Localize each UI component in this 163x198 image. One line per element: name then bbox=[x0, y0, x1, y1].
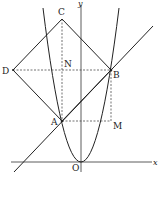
label-o: O bbox=[72, 163, 79, 173]
point-d bbox=[12, 69, 14, 71]
label-b: B bbox=[113, 70, 120, 80]
geometry-figure: C D N B A M O x y bbox=[0, 0, 163, 198]
label-d: D bbox=[2, 66, 9, 76]
label-n: N bbox=[64, 59, 72, 69]
label-y: y bbox=[77, 0, 83, 8]
point-a bbox=[61, 120, 64, 123]
label-x: x bbox=[153, 158, 158, 167]
label-a: A bbox=[50, 117, 58, 127]
point-b bbox=[110, 69, 113, 72]
label-m: M bbox=[113, 121, 122, 131]
label-c: C bbox=[58, 7, 65, 17]
